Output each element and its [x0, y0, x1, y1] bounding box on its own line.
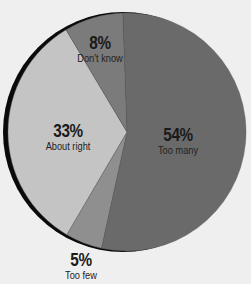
- slice-percent: 54%: [159, 126, 198, 144]
- slice-label-dont-know: 8% Don't know: [74, 34, 126, 65]
- slice-category: Too few: [65, 269, 97, 282]
- slice-percent: 8%: [78, 34, 122, 52]
- slice-label-about-right: 33% About right: [43, 122, 94, 153]
- slice-category: Too many: [158, 144, 198, 157]
- slice-category: Don't know: [77, 52, 122, 65]
- slice-percent: 33%: [46, 122, 89, 140]
- slice-label-too-few: 5% Too few: [63, 251, 99, 282]
- slice-category: About right: [46, 140, 91, 153]
- slice-label-too-many: 54% Too many: [155, 126, 201, 157]
- slice-percent: 5%: [66, 251, 97, 269]
